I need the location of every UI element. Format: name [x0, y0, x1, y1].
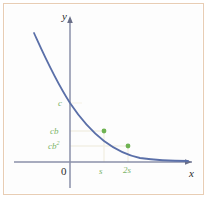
- value-label-cb: cb: [50, 127, 59, 136]
- origin-label: 0: [61, 166, 67, 177]
- plot-canvas: [0, 0, 207, 198]
- x-axis-label: x: [189, 168, 194, 179]
- value-label-cb-squared-exponent: 2: [57, 140, 60, 146]
- y-axis-label: y: [62, 11, 67, 22]
- value-label-cb-squared-base: cb: [48, 141, 57, 151]
- value-label-cb-squared: cb2: [48, 142, 60, 151]
- exponential-decay-figure: y x 0 c cb cb2 s 2s: [0, 0, 207, 198]
- data-point-2s: [126, 144, 131, 149]
- x-tick-label-s: s: [99, 167, 103, 176]
- x-tick-label-2s: 2s: [123, 166, 131, 175]
- guide-gridlines: [70, 103, 128, 162]
- value-label-c: c: [58, 99, 62, 108]
- data-point-s: [102, 129, 107, 134]
